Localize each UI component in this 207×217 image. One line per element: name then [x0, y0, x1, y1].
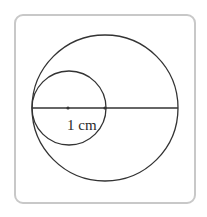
- small-circle-center-point: [66, 106, 69, 109]
- large-circle-center-point: [103, 106, 106, 109]
- circles-diagram: 1 cm: [0, 0, 207, 217]
- radius-label: 1 cm: [67, 117, 97, 133]
